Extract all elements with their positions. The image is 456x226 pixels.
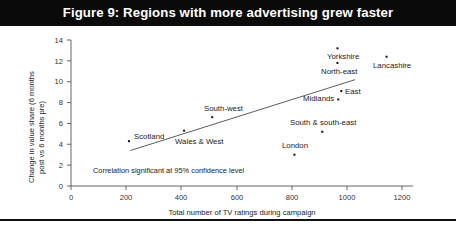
data-point-east[interactable]: East [340,87,361,96]
data-point-south-west[interactable]: South-west [204,104,244,118]
x-tick-label: 200 [120,193,133,202]
bottom-divider [0,219,456,221]
point-label: Yorkshire [327,52,359,61]
data-point-scotland[interactable]: Scotland [128,132,164,142]
x-tick-label: 400 [175,193,188,202]
point-label: East [345,87,361,96]
data-point-north-east[interactable]: North-east [321,62,358,76]
x-tick-label: 1200 [394,193,411,202]
point-label: North-east [321,67,358,76]
y-tick-label: 12 [55,57,63,66]
y-tick-label: 8 [59,98,63,107]
point-label: Scotland [134,132,164,141]
data-point-midlands[interactable]: Midlands [303,94,339,103]
x-tick-label: 1000 [339,193,356,202]
page-title: Figure 9: Regions with more advertising … [0,0,456,26]
point-label: Midlands [303,94,334,103]
point-label: South-west [204,104,244,113]
point-label: Lancashire [373,61,411,70]
data-point-south-and-south-east[interactable]: South & south-east [290,118,357,133]
x-axis: 0 200 400 600 800 1000 1200 Total number… [69,186,413,217]
data-point-lancashire[interactable]: Lancashire [373,56,411,70]
y-tick-label: 14 [55,36,63,45]
correlation-annotation: Correlation significant at 95% confidenc… [93,166,245,175]
y-tick-label: 6 [59,119,63,128]
figure-title-bar: Figure 9: Regions with more advertising … [0,0,456,26]
point-label: South & south-east [290,118,357,127]
data-point-wales-west[interactable]: Wales & West [175,130,224,146]
y-tick-label: 10 [55,77,63,86]
y-axis-title: Change in value share (6 months post vs … [27,71,46,183]
y-tick-label: 4 [59,140,63,149]
x-tick-label: 0 [69,193,73,202]
x-tick-label: 600 [231,193,244,202]
y-axis-title-line2: post vs 6 months pre) [37,101,46,174]
y-axis: 14 12 10 8 6 4 2 0 [55,36,71,191]
y-tick-label: 0 [59,182,63,191]
data-points: Scotland Wales & West South-west London … [128,47,411,155]
y-tick-label: 2 [59,161,63,170]
x-tick-label: 800 [286,193,299,202]
data-point-yorkshire[interactable]: Yorkshire [327,47,359,61]
x-axis-title: Total number of TV ratings during campai… [168,208,315,217]
y-axis-title-line1: Change in value share (6 months [27,71,36,183]
figure-container: Figure 9: Regions with more advertising … [0,0,456,226]
point-label: London [282,141,308,150]
data-point-london[interactable]: London [282,141,308,156]
scatter-chart: Change in value share (6 months post vs … [0,26,456,219]
point-label: Wales & West [175,137,224,146]
